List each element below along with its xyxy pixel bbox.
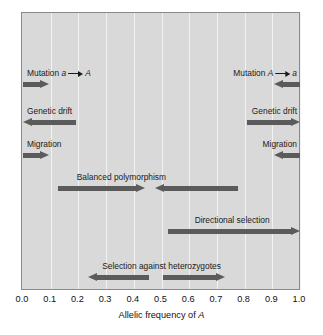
x-tick-label: 0.9 [265,294,278,304]
annotation-label-balanced-polymorphism: Balanced polymorphism [77,172,166,182]
arrow-shaft [23,153,41,158]
arrow-shaft [247,120,292,125]
arrow-selection-against-heterozygotes-left [88,273,149,282]
arrow-balanced-polymorphism-right [58,184,145,193]
arrow-head-icon [155,184,164,192]
arrow-migration-left-right [23,151,49,160]
arrow-mutation-a-to-A-right [23,80,49,89]
arrow-head-icon [40,80,49,88]
annotation-label-migration-right: Migration [263,139,297,149]
gridline [51,13,52,289]
x-tick-label: 0.8 [237,294,250,304]
x-tick-label: 0.5 [154,294,167,304]
arrow-shaft [96,275,149,280]
arrow-shaft [282,82,300,87]
annotation-label-genetic-drift-left: Genetic drift [27,106,72,116]
arrow-head-icon [274,151,283,159]
annotation-label-mutation-A-to-a: Mutation Aa [233,68,297,78]
gridline [217,13,218,289]
gridline [162,13,163,289]
arrow-mutation-A-to-a-left [274,80,300,89]
arrow-migration-right-left [274,151,300,160]
arrow-selection-against-heterozygotes-right [163,273,225,282]
arrow-shaft [23,82,41,87]
figure-root: Mutation aAMutation AaGenetic driftGenet… [0,0,323,335]
arrow-shaft [282,153,300,158]
arrow-balanced-polymorphism-left [155,184,238,193]
arrow-shaft [168,229,292,234]
arrow-head-icon [274,80,283,88]
arrow-head-icon [136,184,145,192]
arrow-head-icon [23,118,32,126]
arrow-genetic-drift-right-right [247,118,300,127]
gridline [78,13,79,289]
arrow-genetic-drift-left-left [23,118,76,127]
arrow-head-icon [40,151,49,159]
arrow-head-icon [291,227,300,235]
arrow-head-icon [291,118,300,126]
plot-area: Mutation aAMutation AaGenetic driftGenet… [21,12,300,290]
x-tick-label: 0.0 [16,294,29,304]
gridline [300,13,301,289]
gridline [134,13,135,289]
x-tick-label: 0.6 [182,294,195,304]
gridline [245,13,246,289]
x-axis-title-italic: A [198,310,204,320]
annotation-label-directional-selection: Directional selection [195,215,270,225]
arrow-shaft [163,186,238,191]
gridline [189,13,190,289]
annotation-label-genetic-drift-right: Genetic drift [252,106,297,116]
annotation-label-selection-against-heterozygotes: Selection against heterozygotes [102,261,221,271]
arrow-directional-selection-right [168,227,300,236]
x-axis-ticks: 0.00.10.20.30.40.50.60.70.80.91.0 [0,294,323,308]
x-tick-label: 0.1 [43,294,56,304]
x-axis-title: Allelic frequency of A [0,310,323,320]
mutation-direction-arrow-icon [68,70,83,78]
x-tick-label: 0.3 [99,294,112,304]
mutation-direction-arrow-icon [275,70,290,78]
arrow-shaft [163,275,217,280]
arrow-head-icon [88,273,97,281]
x-tick-label: 0.4 [126,294,139,304]
annotation-label-migration-left: Migration [27,139,61,149]
arrow-shaft [58,186,137,191]
x-tick-label: 0.2 [71,294,84,304]
x-tick-label: 0.7 [210,294,223,304]
x-axis-title-text: Allelic frequency of [119,310,199,320]
gridline [106,13,107,289]
arrow-shaft [31,120,76,125]
x-tick-label: 1.0 [293,294,306,304]
annotation-label-mutation-a-to-A: Mutation aA [27,68,91,78]
arrow-head-icon [216,273,225,281]
